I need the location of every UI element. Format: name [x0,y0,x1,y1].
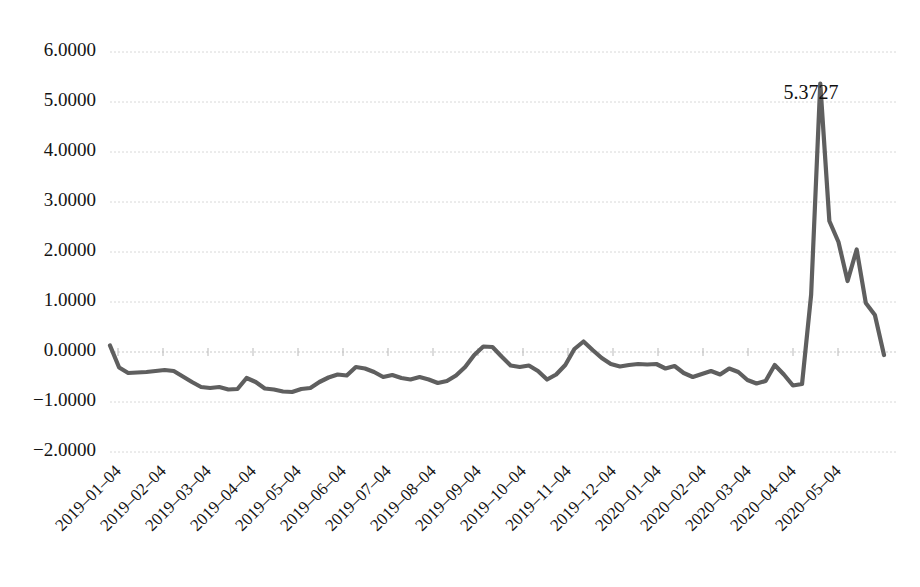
chart-canvas: 6.00005.00004.00003.00002.00001.00000.00… [0,0,920,587]
y-axis-tick-label: 4.0000 [44,139,96,160]
y-axis-tick-label: −1.0000 [33,389,96,410]
line-chart: 6.00005.00004.00003.00002.00001.00000.00… [0,0,920,587]
x-axis-labels: 2019–01–042019–02–042019–03–042019–04–04… [51,461,845,535]
peak-value-label: 5.3727 [784,81,839,103]
y-axis-tick-label: 6.0000 [44,39,96,60]
y-axis-tick-label: 5.0000 [44,89,96,110]
y-axis-tick-label: 0.0000 [44,339,96,360]
data-annotations: 5.3727 [784,81,839,103]
data-series [110,84,884,393]
series-line [110,84,884,393]
y-axis-tick-label: 2.0000 [44,239,96,260]
gridlines [110,52,898,452]
y-axis-labels: 6.00005.00004.00003.00002.00001.00000.00… [33,39,96,460]
y-axis-tick-label: 3.0000 [44,189,96,210]
y-axis-tick-label: −2.0000 [33,439,96,460]
y-axis-tick-label: 1.0000 [44,289,96,310]
